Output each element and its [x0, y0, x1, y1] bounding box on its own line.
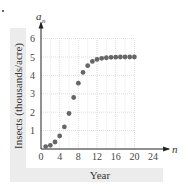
x-tick-label: 16 [111, 151, 121, 162]
data-point [132, 55, 137, 60]
x-tick-label: 24 [148, 151, 158, 162]
x-tick-label: 8 [76, 151, 81, 162]
y-tick-label: 4 [30, 70, 35, 81]
y-tick-label: 2 [30, 107, 35, 118]
data-point [81, 70, 86, 75]
data-point [76, 81, 81, 86]
data-point [57, 134, 62, 139]
data-point [43, 144, 48, 149]
data-point [113, 55, 118, 60]
data-point [99, 56, 104, 61]
x-tick-label: 4 [57, 151, 62, 162]
data-point [62, 125, 67, 130]
x-tick-label: 20 [129, 151, 139, 162]
y-tick-label: 5 [30, 52, 35, 63]
data-point [71, 95, 76, 100]
y-tick-label: 3 [30, 88, 35, 99]
data-point [53, 140, 58, 145]
y-tick-label: 6 [30, 33, 35, 44]
x-tick-label: 12 [92, 151, 102, 162]
data-point [85, 63, 90, 68]
y-tick-label: 1 [30, 125, 35, 136]
x-tick-label: 0 [39, 151, 44, 162]
x-axis-symbol: n [172, 143, 178, 155]
data-point [67, 111, 72, 116]
data-point [104, 55, 109, 60]
data-point [118, 55, 123, 60]
data-point [123, 55, 128, 60]
x-axis-arrow-icon [163, 147, 170, 152]
data-point [127, 55, 132, 60]
chart-plot: 04812162024123456ann [0, 0, 188, 188]
y-axis-symbol-subscript: n [42, 17, 46, 25]
data-point [109, 55, 114, 60]
data-point [48, 143, 53, 148]
data-point [90, 59, 95, 64]
data-point [95, 57, 100, 62]
